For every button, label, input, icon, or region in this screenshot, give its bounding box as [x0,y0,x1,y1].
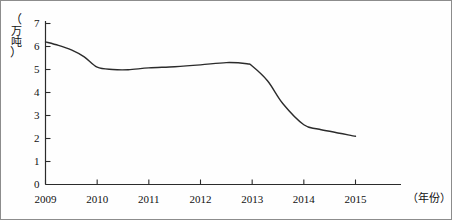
x-axis-tick-label: 2014 [281,194,327,205]
data-series-line [46,42,356,136]
y-axis-tick-label: 4 [24,87,40,98]
line-chart-plot [1,1,452,220]
x-axis-tick-label: 2013 [229,194,275,205]
x-axis-tick-label: 2009 [23,194,69,205]
y-axis-tick-label: 1 [24,156,40,167]
x-axis-tick-label: 2015 [333,194,379,205]
y-axis-tick-marks [46,24,51,162]
y-axis-tick-label: 5 [24,64,40,75]
y-axis-tick-label: 7 [24,18,40,29]
y-axis-tick-label: 6 [24,41,40,52]
y-axis-tick-label: 3 [24,110,40,121]
y-axis-tick-label: 0 [24,179,40,190]
y-axis-tick-label: 2 [24,133,40,144]
x-axis-tick-label: 2010 [74,194,120,205]
x-axis-label: （年份） [407,193,451,204]
chart-figure-frame: （ 万 吨 ） 01234567 20092010201120122013201… [0,0,452,220]
x-axis-tick-marks [46,180,356,185]
x-axis-tick-label: 2012 [178,194,224,205]
x-axis-tick-label: 2011 [126,194,172,205]
